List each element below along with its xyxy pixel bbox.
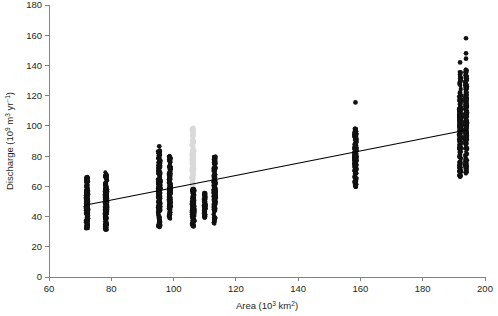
data-point (213, 222, 217, 226)
y-tick-label: 20 (31, 241, 42, 252)
data-point (159, 171, 163, 175)
data-point (190, 152, 194, 156)
data-point (459, 141, 463, 145)
x-tick-label: 160 (352, 283, 368, 294)
data-point (190, 221, 194, 225)
data-point (190, 148, 194, 152)
data-point (103, 190, 107, 194)
x-tick-label: 80 (106, 283, 117, 294)
data-point (192, 158, 196, 162)
outlier-point (353, 100, 358, 105)
y-tick-label: 140 (26, 60, 42, 71)
data-point (168, 155, 172, 159)
data-point (157, 199, 161, 203)
data-point (105, 173, 109, 177)
outlier-point (157, 144, 162, 149)
data-point (458, 98, 462, 102)
x-tick-label: 180 (415, 283, 431, 294)
y-tick-label: 120 (26, 90, 42, 101)
data-point (353, 142, 357, 146)
y-axis-title: Discharge (109 m3 yr−1) (4, 92, 16, 190)
data-point (459, 136, 463, 140)
data-point (457, 163, 461, 167)
data-point (212, 218, 216, 222)
data-point (86, 179, 90, 183)
data-point (464, 72, 468, 76)
data-point (104, 185, 108, 189)
data-point (192, 224, 196, 228)
data-point (167, 178, 171, 182)
data-point (167, 172, 171, 176)
data-point (464, 68, 468, 72)
data-point (213, 169, 217, 173)
data-point (458, 126, 462, 130)
data-point (459, 150, 463, 154)
data-point (213, 207, 217, 211)
data-point (214, 162, 218, 166)
data-point (214, 188, 218, 192)
data-point (212, 174, 216, 178)
y-tick-label: 160 (26, 30, 42, 41)
x-tick-label: 100 (166, 283, 182, 294)
data-point (191, 177, 195, 181)
outlier-point (464, 56, 469, 61)
data-point (169, 211, 173, 215)
data-point (464, 107, 468, 111)
data-point (203, 196, 207, 200)
x-tick-label: 120 (228, 283, 244, 294)
data-point (202, 193, 206, 197)
y-tick-label: 180 (26, 0, 42, 10)
data-point (191, 129, 195, 133)
point-cluster (202, 191, 208, 220)
data-point (104, 223, 108, 227)
data-point (86, 216, 90, 220)
scatter-plot: 020406080100120140160180 608010012014016… (0, 0, 498, 316)
y-tick-label: 40 (31, 211, 42, 222)
data-point (458, 155, 462, 159)
data-point (190, 171, 194, 175)
data-point (458, 117, 462, 121)
y-tick-label: 80 (31, 151, 42, 162)
data-point (353, 138, 357, 142)
data-point (169, 198, 173, 202)
data-point (168, 165, 172, 169)
y-tick-label: 100 (26, 120, 42, 131)
data-point (190, 214, 194, 218)
data-point (191, 198, 195, 202)
data-point (458, 168, 462, 172)
data-point (459, 91, 463, 95)
data-point (458, 160, 462, 164)
data-point (169, 160, 173, 164)
data-point (193, 211, 197, 215)
data-point (191, 143, 195, 147)
data-point (464, 112, 468, 116)
data-point (156, 156, 160, 160)
data-point (192, 190, 196, 194)
data-point (463, 165, 467, 169)
data-point (213, 198, 217, 202)
x-axis-title: Area (103 km2) (236, 300, 298, 312)
data-point (211, 191, 215, 195)
data-point (463, 131, 467, 135)
data-point (158, 178, 162, 182)
data-point (213, 201, 217, 205)
data-point (465, 102, 469, 106)
x-tick-label: 60 (44, 283, 55, 294)
data-point (169, 184, 173, 188)
data-point (192, 139, 196, 143)
data-point (156, 163, 160, 167)
plot-background (0, 0, 498, 316)
outlier-point (458, 60, 463, 65)
data-point (203, 204, 207, 208)
data-point (459, 173, 463, 177)
data-point (214, 166, 218, 170)
data-point (167, 190, 171, 194)
data-point (465, 120, 469, 124)
data-point (459, 104, 463, 108)
data-point (458, 77, 462, 81)
data-point (104, 217, 108, 221)
data-point (354, 157, 358, 161)
data-point (157, 221, 161, 225)
data-point (192, 206, 196, 210)
chart-figure: 020406080100120140160180 608010012014016… (0, 0, 498, 316)
